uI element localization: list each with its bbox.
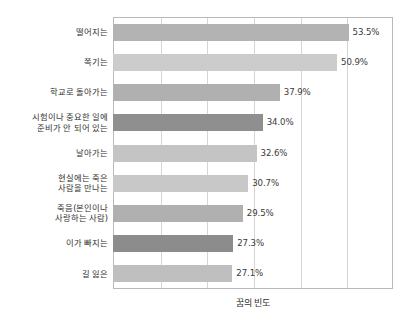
bar-value-label: 30.7% [252,175,279,192]
bar [113,235,233,252]
category-label: 시험이나 중요한 일에 준비가 안 되어 있는 [0,112,108,133]
bar-value-label: 32.6% [261,145,288,162]
bar [113,114,263,131]
category-axis-labels: 떨어지는쪽기는학교로 돌아가는시험이나 중요한 일에 준비가 안 되어 있는날아… [0,17,108,289]
x-axis-title: 꿈의 빈도 [113,296,393,309]
bar [113,145,257,162]
category-label: 학교로 돌아가는 [0,87,108,98]
bars-layer: 53.5%50.9%37.9%34.0%32.6%30.7%29.5%27.3%… [113,17,393,289]
bar [113,54,337,71]
category-label: 이가 빠지는 [0,238,108,249]
bar-value-label: 50.9% [341,54,368,71]
bar [113,24,349,41]
bar-value-label: 29.5% [247,205,274,222]
category-label: 길 잃은 [0,269,108,280]
bar-value-label: 53.5% [353,24,380,41]
category-label: 현실에는 죽은 사람을 만나는 [0,173,108,194]
bar-value-label: 27.1% [236,265,263,282]
bar [113,205,243,222]
category-label: 떨어지는 [0,27,108,38]
bar-chart: 떨어지는쪽기는학교로 돌아가는시험이나 중요한 일에 준비가 안 되어 있는날아… [0,0,409,328]
category-label: 죽음(본인이나 사랑하는 사람) [0,203,108,224]
category-label: 쪽기는 [0,57,108,68]
category-label: 날아가는 [0,148,108,159]
bar-value-label: 34.0% [267,114,294,131]
bar [113,175,248,192]
bar [113,84,280,101]
bar-value-label: 27.3% [237,235,264,252]
bar [113,265,232,282]
bar-value-label: 37.9% [284,84,311,101]
